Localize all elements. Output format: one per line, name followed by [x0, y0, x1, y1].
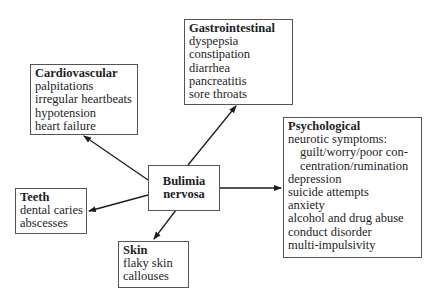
center-label-line2: nervosa — [163, 188, 205, 201]
psychological-box: Psychological neurotic symptoms: guilt/w… — [283, 117, 422, 258]
psychological-item: guilt/worry/poor con- — [288, 146, 417, 159]
gastrointestinal-box: Gastrointestinal dyspepsia constipation … — [184, 19, 293, 105]
cardiovascular-box: Cardiovascular palpitations irregular he… — [30, 64, 138, 135]
skin-box: Skin flaky skin callouses — [118, 241, 189, 288]
psychological-item: multi-impulsivity — [288, 239, 417, 252]
arrow-to-skin — [154, 210, 176, 239]
cardiovascular-item: irregular heartbeats — [35, 93, 133, 106]
cardiovascular-item: hypotension — [35, 107, 133, 120]
teeth-box: Teeth dental caries abscesses — [15, 188, 87, 234]
cardiovascular-item: heart failure — [35, 120, 133, 133]
skin-item: callouses — [123, 270, 184, 283]
gastrointestinal-item: constipation — [189, 48, 288, 61]
arrow-to-teeth — [89, 195, 148, 211]
arrow-to-cardiovascular — [84, 136, 148, 180]
teeth-item: abscesses — [20, 217, 82, 230]
gastrointestinal-item: diarrhea — [189, 62, 288, 75]
gastrointestinal-item: sore throats — [189, 88, 288, 101]
psychological-item: alcohol and drug abuse — [288, 212, 417, 225]
psychological-item: centration/rumination — [288, 160, 417, 173]
bulimia-nervosa-box: Bulimia nervosa — [148, 165, 220, 211]
arrow-to-gastrointestinal — [188, 106, 236, 165]
psychological-item: conduct disorder — [288, 226, 417, 239]
